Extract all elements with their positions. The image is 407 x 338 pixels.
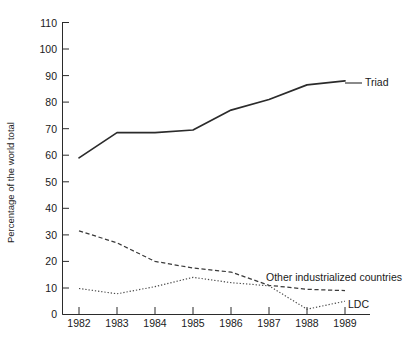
x-axis-tick-labels: 1982 1983 1984 1985 1986 1987 1988 1989 xyxy=(67,317,357,329)
y-tick-label: 30 xyxy=(45,229,57,241)
x-tick-label: 1986 xyxy=(219,317,243,329)
y-tick-label: 10 xyxy=(45,282,57,294)
y-tick-label: 110 xyxy=(40,17,57,29)
x-tick-label: 1988 xyxy=(295,317,319,329)
y-tick-label: 80 xyxy=(45,96,57,108)
x-axis-ticks xyxy=(79,307,345,315)
y-tick-label: 90 xyxy=(45,70,57,82)
x-tick-label: 1982 xyxy=(67,317,91,329)
y-tick-label: 0 xyxy=(51,308,57,320)
x-tick-label: 1983 xyxy=(105,317,129,329)
x-tick-label: 1984 xyxy=(143,317,167,329)
x-tick-label: 1987 xyxy=(257,317,281,329)
x-tick-label: 1985 xyxy=(181,317,205,329)
y-tick-label: 100 xyxy=(39,43,57,55)
y-tick-label: 70 xyxy=(45,123,57,135)
y-axis-tick-labels: 0 10 20 30 40 50 60 70 80 90 100 110 xyxy=(39,17,57,321)
y-tick-label: 50 xyxy=(45,176,57,188)
chart-canvas: Percentage of the world total 0 10 20 30… xyxy=(0,0,407,338)
y-axis-ticks xyxy=(63,23,70,315)
series-label-other-industrialized: Other industrialized countries xyxy=(266,271,402,283)
series-label-triad: Triad xyxy=(365,76,389,88)
y-tick-label: 20 xyxy=(45,255,57,267)
y-axis-title: Percentage of the world total xyxy=(5,122,16,243)
x-tick-label: 1989 xyxy=(333,317,357,329)
line-chart: Percentage of the world total 0 10 20 30… xyxy=(0,0,407,338)
series-label-ldc: LDC xyxy=(348,298,369,310)
series-line-triad xyxy=(79,81,345,158)
y-tick-label: 60 xyxy=(45,149,57,161)
y-tick-label: 40 xyxy=(45,202,57,214)
